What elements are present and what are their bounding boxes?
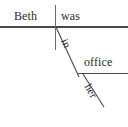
word-object-of-preposition: office [84, 56, 112, 68]
preposition-slant-line [56, 27, 79, 77]
sentence-diagram: Beth was in office her [0, 0, 128, 127]
word-verb: was [61, 10, 80, 22]
word-subject: Beth [14, 10, 37, 22]
